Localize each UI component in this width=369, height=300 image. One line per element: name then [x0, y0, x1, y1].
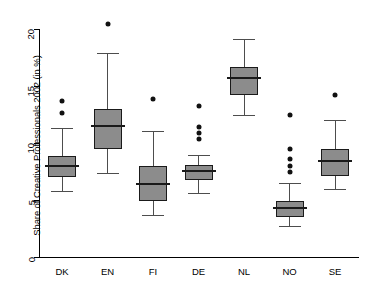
whisker-lower-cap [324, 189, 346, 190]
whisker-lower-stem [198, 180, 199, 193]
median-line [318, 160, 352, 162]
x-tick-label-dk: DK [55, 266, 68, 277]
whisker-upper-cap [233, 39, 255, 40]
whisker-lower-cap [279, 226, 301, 227]
median-line [136, 183, 170, 185]
median-line [91, 125, 125, 127]
median-line [45, 165, 79, 167]
boxplot-nl [230, 20, 258, 257]
whisker-upper-cap [51, 128, 73, 129]
box-iqr [276, 201, 304, 217]
box-iqr [230, 67, 258, 95]
whisker-lower-stem [153, 201, 154, 215]
whisker-lower-stem [289, 217, 290, 226]
whisker-upper-cap [97, 53, 119, 54]
outlier-point [287, 169, 292, 174]
x-tick-label-nl: NL [238, 266, 250, 277]
whisker-upper-cap [324, 120, 346, 121]
outlier-point [196, 125, 201, 130]
boxplot-de [185, 20, 213, 257]
y-tick-5: 5 [34, 200, 39, 201]
boxplot-figure: Share of Creative Professionals 2002 (in… [0, 0, 369, 300]
boxplot-dk [48, 20, 76, 257]
boxplot-en [94, 20, 122, 257]
outlier-point [287, 147, 292, 152]
outlier-point [287, 112, 292, 117]
whisker-lower-stem [244, 95, 245, 114]
x-tick-label-fi: FI [149, 266, 157, 277]
outlier-point [196, 103, 201, 108]
whisker-upper-stem [107, 53, 108, 109]
x-tick-label-en: EN [101, 266, 114, 277]
outlier-point [105, 21, 110, 26]
whisker-upper-stem [335, 120, 336, 149]
whisker-lower-stem [107, 149, 108, 173]
y-tick-label-0: 0 [31, 257, 32, 262]
whisker-lower-stem [62, 177, 63, 191]
box-iqr [94, 109, 122, 149]
whisker-upper-stem [62, 128, 63, 155]
whisker-upper-cap [188, 155, 210, 156]
whisker-lower-cap [97, 173, 119, 174]
x-tick-label-se: SE [329, 266, 342, 277]
outlier-point [287, 157, 292, 162]
whisker-lower-cap [233, 115, 255, 116]
y-tick-label-15: 15 [31, 86, 32, 97]
whisker-upper-cap [142, 131, 164, 132]
median-line [182, 170, 216, 172]
outlier-point [196, 136, 201, 141]
boxplot-fi [139, 20, 167, 257]
whisker-lower-cap [188, 193, 210, 194]
outlier-point [196, 130, 201, 135]
box-iqr [185, 165, 213, 180]
whisker-lower-stem [335, 176, 336, 189]
y-tick-label-20: 20 [31, 29, 32, 40]
outlier-point [151, 96, 156, 101]
x-tick-label-no: NO [282, 266, 296, 277]
y-tick-20: 20 [34, 29, 39, 30]
y-tick-0: 0 [34, 257, 39, 258]
y-tick-label-5: 5 [31, 200, 32, 205]
x-tick-label-de: DE [192, 266, 205, 277]
whisker-lower-cap [51, 191, 73, 192]
whisker-upper-stem [153, 131, 154, 166]
outlier-point [333, 93, 338, 98]
boxplot-se [321, 20, 349, 257]
whisker-upper-stem [198, 155, 199, 165]
y-axis-line [39, 29, 40, 257]
y-tick-10: 10 [34, 143, 39, 144]
whisker-upper-stem [244, 39, 245, 66]
boxplot-no [276, 20, 304, 257]
whisker-upper-stem [289, 183, 290, 201]
x-axis-line [39, 257, 359, 258]
y-tick-label-10: 10 [31, 143, 32, 154]
whisker-lower-cap [142, 215, 164, 216]
outlier-point [60, 98, 65, 103]
median-line [273, 207, 307, 209]
outlier-point [60, 111, 65, 116]
outlier-point [287, 163, 292, 168]
box-iqr [321, 149, 349, 176]
whisker-upper-cap [279, 183, 301, 184]
median-line [227, 77, 261, 79]
plot-area: 05101520 DKENFIDENLNOSE [39, 20, 359, 257]
y-tick-15: 15 [34, 86, 39, 87]
